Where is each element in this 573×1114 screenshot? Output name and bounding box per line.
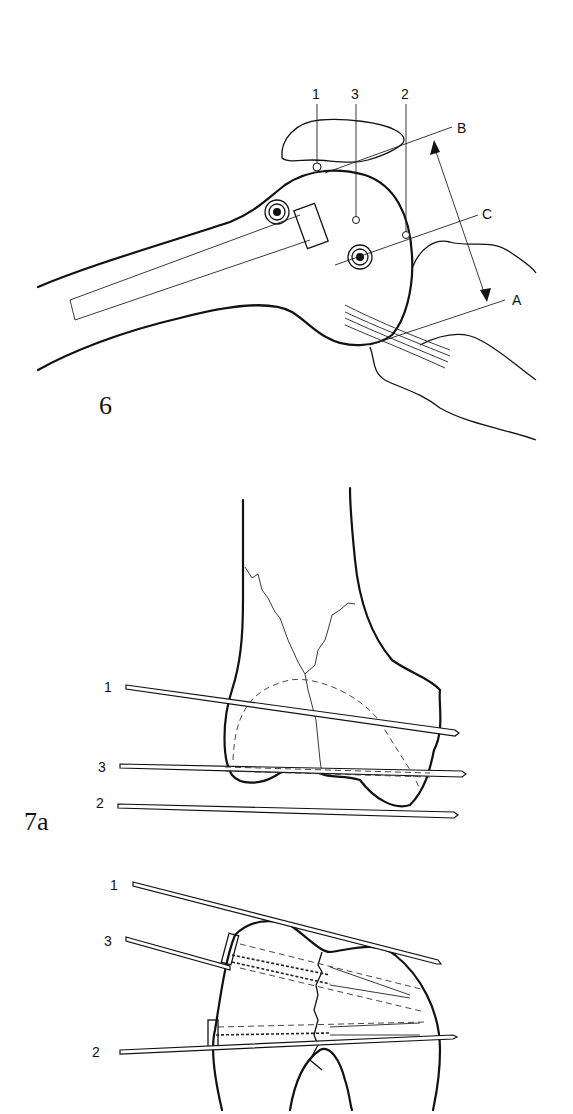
ligament xyxy=(345,305,450,368)
lag-screw-upper xyxy=(221,933,425,1012)
figure-7a-label: 7a xyxy=(24,807,49,836)
wire-1-label: 1 xyxy=(104,679,112,695)
wire-2-lower[interactable] xyxy=(120,1035,457,1054)
illustration-canvas: 1 3 2 B C A 6 1 3 2 7a xyxy=(0,0,573,1114)
wire-3[interactable] xyxy=(120,764,466,777)
patella-outline xyxy=(282,119,404,162)
wire-2-lower-label: 2 xyxy=(92,1044,100,1060)
pin-2-label: 2 xyxy=(401,86,409,102)
distal-femur-outline xyxy=(225,488,441,806)
figure-6-label: 6 xyxy=(99,391,112,420)
pin-1-marker xyxy=(313,163,321,171)
plane-c-label: C xyxy=(482,206,492,222)
wire-3-label: 3 xyxy=(98,759,106,775)
wire-2-label: 2 xyxy=(96,795,104,811)
wire-3-lower-label: 3 xyxy=(104,933,112,949)
screw-proximal xyxy=(265,200,289,224)
pin-2-marker xyxy=(403,232,410,239)
range-arrow xyxy=(434,146,486,298)
figure-6: 1 3 2 B C A 6 xyxy=(38,86,536,440)
plane-b-label: B xyxy=(457,120,466,136)
condyle-outline xyxy=(213,921,440,1110)
pin-3-label: 3 xyxy=(351,86,359,102)
screw-distal xyxy=(348,245,372,269)
figure-7a-upper: 1 3 2 7a xyxy=(24,488,466,836)
figure-7a-lower: 1 3 2 xyxy=(92,877,457,1110)
plate-outline xyxy=(70,215,310,320)
wire-1-lower-label: 1 xyxy=(110,877,118,893)
pin-3-marker xyxy=(353,217,360,224)
wire-1[interactable] xyxy=(126,685,459,736)
plane-a-label: A xyxy=(512,292,522,308)
plate-block xyxy=(294,203,328,248)
wire-3-lower[interactable] xyxy=(126,937,230,970)
pin-1-label: 1 xyxy=(312,86,320,102)
